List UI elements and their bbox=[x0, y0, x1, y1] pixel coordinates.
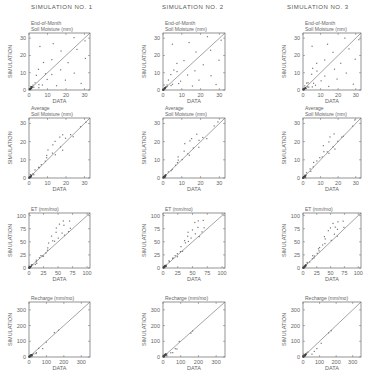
data-point bbox=[309, 261, 310, 262]
data-point bbox=[68, 62, 69, 63]
y-axis-label: SIMULATION bbox=[281, 45, 287, 78]
data-point bbox=[319, 247, 320, 248]
data-point bbox=[333, 133, 334, 134]
panel-variable-label: Soil Moisture (mm) bbox=[165, 26, 207, 32]
data-point bbox=[331, 330, 332, 331]
data-point bbox=[163, 84, 164, 85]
x-tick-label: 0 bbox=[27, 359, 30, 365]
data-point bbox=[312, 68, 313, 69]
data-point bbox=[331, 240, 332, 241]
data-point bbox=[323, 145, 324, 146]
data-point bbox=[52, 240, 53, 241]
panel-variable-label: ET (mm/mo) bbox=[305, 206, 333, 212]
data-point bbox=[43, 62, 44, 63]
data-point bbox=[45, 73, 46, 74]
data-point bbox=[38, 348, 39, 349]
y-tick-label: 100 bbox=[151, 338, 160, 344]
x-tick-label: 0 bbox=[27, 180, 30, 186]
y-tick-label: 0 bbox=[157, 265, 160, 271]
data-point bbox=[33, 87, 34, 88]
y-tick-label: 20 bbox=[294, 52, 300, 58]
data-point bbox=[176, 71, 177, 72]
data-point bbox=[52, 144, 53, 145]
data-point bbox=[35, 264, 36, 265]
y-tick-label: 0 bbox=[157, 175, 160, 181]
data-point bbox=[193, 147, 194, 148]
x-tick-label: 30 bbox=[353, 180, 359, 186]
data-point bbox=[85, 58, 86, 59]
y-tick-label: 10 bbox=[154, 157, 160, 163]
data-point bbox=[192, 85, 193, 86]
data-point bbox=[307, 82, 308, 83]
data-point bbox=[343, 227, 344, 228]
data-point bbox=[38, 84, 39, 85]
data-point bbox=[306, 83, 307, 84]
x-axis-label: DATA bbox=[53, 98, 67, 104]
data-point bbox=[54, 141, 55, 142]
data-point bbox=[36, 263, 37, 264]
y-axis-label: SIMULATION bbox=[7, 45, 13, 78]
data-point bbox=[328, 332, 329, 333]
data-point bbox=[63, 220, 64, 221]
x-tick-label: 75 bbox=[204, 270, 210, 276]
data-point bbox=[47, 250, 48, 251]
y-tick-label: 75 bbox=[294, 226, 300, 232]
data-point bbox=[352, 126, 353, 127]
data-point bbox=[346, 72, 347, 73]
x-tick-label: 0 bbox=[161, 359, 164, 365]
data-point bbox=[313, 162, 314, 163]
y-tick-label: 0 bbox=[297, 175, 300, 181]
x-tick-label: 100 bbox=[354, 270, 363, 276]
data-point bbox=[191, 138, 192, 139]
data-point bbox=[56, 227, 57, 228]
data-point bbox=[172, 169, 173, 170]
data-point bbox=[334, 69, 335, 70]
data-point bbox=[167, 86, 168, 87]
data-point bbox=[195, 233, 196, 234]
data-point bbox=[184, 240, 185, 241]
data-point bbox=[62, 134, 63, 135]
y-tick-label: 30 bbox=[294, 120, 300, 126]
data-point bbox=[337, 141, 338, 142]
data-point bbox=[214, 125, 215, 126]
data-point bbox=[33, 353, 34, 354]
data-point bbox=[198, 147, 199, 148]
x-tick-label: 0 bbox=[161, 270, 164, 276]
y-tick-label: 100 bbox=[291, 338, 300, 344]
data-point bbox=[353, 84, 354, 85]
data-point bbox=[48, 242, 49, 243]
data-point bbox=[73, 37, 74, 38]
x-tick-label: 30 bbox=[216, 92, 222, 98]
y-tick-label: 10 bbox=[294, 70, 300, 76]
panel-variable-label: Recharge (mm/mo) bbox=[305, 295, 348, 301]
data-point bbox=[51, 236, 52, 237]
panel-variable-label: Soil Moisture (mm) bbox=[305, 26, 347, 32]
data-point bbox=[314, 351, 315, 352]
data-point bbox=[180, 251, 181, 252]
data-point bbox=[192, 330, 193, 331]
data-point bbox=[307, 263, 308, 264]
data-point bbox=[306, 172, 307, 173]
data-point bbox=[70, 228, 71, 229]
data-point bbox=[55, 232, 56, 233]
data-point bbox=[175, 348, 176, 349]
data-point bbox=[187, 232, 188, 233]
y-axis-label: SIMULATION bbox=[7, 313, 13, 346]
y-tick-label: 10 bbox=[154, 70, 160, 76]
data-point bbox=[329, 136, 330, 137]
x-tick-label: 25 bbox=[40, 270, 46, 276]
data-point bbox=[76, 49, 77, 50]
y-tick-label: 25 bbox=[294, 252, 300, 258]
y-tick-label: 10 bbox=[20, 157, 26, 163]
y-tick-label: 200 bbox=[17, 323, 26, 329]
data-point bbox=[203, 64, 204, 65]
data-point bbox=[42, 84, 43, 85]
data-point bbox=[316, 63, 317, 64]
data-point bbox=[312, 255, 313, 256]
data-point bbox=[168, 171, 169, 172]
y-tick-label: 300 bbox=[17, 307, 26, 313]
x-tick-label: 100 bbox=[176, 359, 185, 365]
y-tick-label: 20 bbox=[20, 139, 26, 145]
y-tick-label: 300 bbox=[291, 307, 300, 313]
data-point bbox=[60, 50, 61, 51]
